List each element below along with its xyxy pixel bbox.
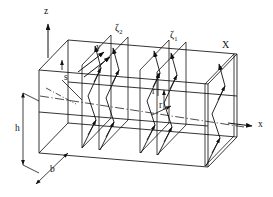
dimension-h-ext-top xyxy=(23,93,39,101)
arc-length-s-label: s xyxy=(64,72,68,82)
box-edge-bottom-front xyxy=(39,153,208,167)
radius-r-lower-label: r xyxy=(159,100,163,110)
plane-X-label: X xyxy=(222,39,230,50)
box-edge-bottom-left xyxy=(39,123,68,153)
velocity-curve-zeta2-b-tick1 xyxy=(106,122,114,137)
section-plane-X-outline xyxy=(205,54,234,166)
y-axis-label: y xyxy=(96,42,101,52)
z-axis-label: z xyxy=(44,6,48,16)
y-axis-arrow-second xyxy=(84,57,110,77)
dimension-h-ext-bottom xyxy=(23,165,39,173)
box-edge-top-left xyxy=(39,40,68,70)
zeta2-subscript: 2 xyxy=(119,28,122,35)
velocity-curve-zeta1-a-tick1 xyxy=(147,125,155,140)
radius-r-upper-label: r xyxy=(152,86,156,96)
box-edge-top-right xyxy=(208,54,237,84)
dimension-lines xyxy=(23,93,68,184)
x-axis-label: x xyxy=(258,119,263,129)
section-plane-zeta1 xyxy=(140,40,186,155)
velocity-curve-X xyxy=(206,64,225,166)
diagram-root: z y x h b ζ2 ζ1 s r r X xyxy=(0,0,273,197)
dimension-b-label: b xyxy=(50,164,55,174)
zeta1-subscript: 1 xyxy=(174,35,177,42)
section-plane-zeta1-outline xyxy=(140,40,169,153)
channel-diagram: z y x h b ζ2 ζ1 s r r X xyxy=(0,0,273,197)
zeta2-label: ζ2 xyxy=(115,22,122,35)
velocity-curve-X-tick2 xyxy=(218,86,225,100)
dimension-h-label: h xyxy=(15,123,20,133)
velocity-curve-zeta2-b-tick2 xyxy=(112,70,119,84)
box-edge-top-back xyxy=(68,40,237,54)
velocity-curve-X-tick1 xyxy=(212,138,220,153)
velocity-curve-zeta2-a-tick1 xyxy=(88,120,96,135)
centerline-cross-tick xyxy=(46,88,76,104)
velocity-curve-zeta1-b-tick2 xyxy=(170,75,177,89)
section-plane-zeta2b-outline xyxy=(99,37,128,150)
zeta1-label: ζ1 xyxy=(170,29,177,42)
section-plane-zeta1b-outline xyxy=(157,42,186,155)
box-edge-mid-rail-front xyxy=(39,112,208,126)
x-axis-arrow xyxy=(228,123,252,126)
channel-box-outline xyxy=(39,40,237,167)
velocity-curve-zeta1-b-tick1 xyxy=(164,127,172,142)
section-plane-X xyxy=(205,54,234,166)
